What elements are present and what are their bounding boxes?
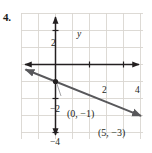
- x-tick-label-2: 2: [102, 86, 107, 96]
- exercise-figure: 4.: [0, 0, 152, 153]
- y-tick-label-neg4: −4: [50, 138, 60, 148]
- leader-line: [57, 83, 62, 97]
- graph-canvas: [21, 13, 143, 139]
- y-tick-label-neg2: −2: [50, 105, 60, 115]
- y-axis-name-label: y: [77, 30, 81, 40]
- point-label-0-neg1: (0, −1): [67, 109, 94, 119]
- coordinate-graph: 2 −2 −4 2 4 y x (0, −1) (5, −3): [21, 13, 143, 139]
- point-label-5-neg3: (5, −3): [98, 128, 125, 138]
- x-tick-label-4: 4: [135, 86, 140, 96]
- point-marker-0-neg1: [53, 79, 58, 84]
- problem-number: 4.: [3, 11, 11, 23]
- y-tick-label-2: 2: [51, 39, 56, 49]
